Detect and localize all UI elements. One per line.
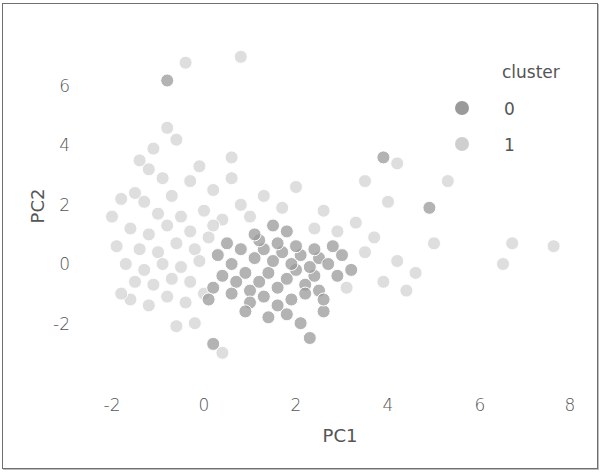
data-point-cluster-1 — [409, 266, 422, 279]
legend-marker-cluster-1 — [455, 137, 469, 151]
data-point-cluster-1 — [110, 240, 123, 253]
data-point-cluster-0 — [221, 237, 234, 250]
data-point-cluster-0 — [280, 225, 293, 238]
data-point-cluster-1 — [119, 258, 132, 271]
data-point-cluster-1 — [170, 237, 183, 250]
y-tick-neg2: -2 — [53, 314, 70, 334]
data-point-cluster-0 — [299, 287, 312, 300]
data-point-cluster-1 — [340, 281, 353, 294]
data-point-cluster-1 — [193, 255, 206, 268]
data-point-cluster-0 — [294, 317, 307, 330]
data-point-cluster-1 — [359, 175, 372, 188]
x-tick-4: 4 — [383, 395, 394, 415]
data-point-cluster-1 — [547, 240, 560, 253]
data-point-cluster-1 — [331, 225, 344, 238]
data-point-cluster-1 — [161, 219, 174, 232]
data-point-cluster-1 — [175, 261, 188, 274]
data-point-cluster-1 — [156, 258, 169, 271]
data-point-cluster-0 — [377, 151, 390, 164]
data-point-cluster-0 — [225, 258, 238, 271]
data-point-cluster-1 — [138, 195, 151, 208]
y-axis-ticks: 6 4 2 0 -2 — [53, 76, 70, 334]
data-point-cluster-1 — [257, 189, 270, 202]
data-point-cluster-1 — [165, 272, 178, 285]
data-point-cluster-0 — [248, 228, 261, 241]
data-point-cluster-1 — [368, 231, 381, 244]
data-point-cluster-1 — [207, 184, 220, 197]
data-point-cluster-1 — [290, 181, 303, 194]
data-point-cluster-1 — [161, 290, 174, 303]
legend-label-cluster-1: 1 — [504, 135, 515, 155]
data-point-cluster-1 — [428, 237, 441, 250]
data-point-cluster-0 — [331, 269, 344, 282]
data-point-cluster-1 — [506, 237, 519, 250]
data-point-cluster-0 — [326, 240, 339, 253]
y-axis-label: PC2 — [27, 189, 48, 224]
data-point-cluster-1 — [170, 133, 183, 146]
data-point-cluster-1 — [124, 222, 137, 235]
data-point-cluster-0 — [262, 266, 275, 279]
data-point-cluster-0 — [345, 263, 358, 276]
data-point-cluster-1 — [400, 284, 413, 297]
data-point-cluster-1 — [276, 201, 289, 214]
data-point-cluster-1 — [317, 204, 330, 217]
x-axis-ticks: -2 0 2 4 6 8 — [104, 395, 576, 415]
x-tick-0: 0 — [199, 395, 210, 415]
data-point-cluster-1 — [115, 192, 128, 205]
data-point-cluster-0 — [234, 243, 247, 256]
data-point-cluster-1 — [147, 142, 160, 155]
data-point-cluster-1 — [142, 228, 155, 241]
y-tick-4: 4 — [59, 135, 70, 155]
data-point-cluster-0 — [303, 332, 316, 345]
data-point-cluster-0 — [308, 243, 321, 256]
data-point-cluster-1 — [225, 172, 238, 185]
data-point-cluster-0 — [290, 240, 303, 253]
data-point-cluster-1 — [170, 320, 183, 333]
legend-title: cluster — [502, 62, 560, 82]
data-point-cluster-0 — [423, 201, 436, 214]
data-point-cluster-0 — [285, 293, 298, 306]
data-point-cluster-1 — [152, 207, 165, 220]
data-point-cluster-0 — [267, 219, 280, 232]
data-point-cluster-0 — [239, 305, 252, 318]
data-point-cluster-1 — [244, 210, 257, 223]
data-point-cluster-1 — [349, 216, 362, 229]
y-tick-2: 2 — [59, 195, 70, 215]
data-point-cluster-1 — [382, 195, 395, 208]
data-point-cluster-0 — [207, 281, 220, 294]
data-point-cluster-1 — [184, 175, 197, 188]
scatter-chart: 6 4 2 0 -2 -2 0 2 4 6 8 PC1 PC2 cluster … — [0, 0, 602, 476]
data-point-cluster-0 — [317, 305, 330, 318]
data-point-cluster-1 — [129, 275, 142, 288]
data-point-cluster-1 — [147, 278, 160, 291]
data-point-cluster-0 — [322, 258, 335, 271]
legend: cluster 0 1 — [455, 62, 560, 155]
x-tick-2: 2 — [291, 395, 302, 415]
y-tick-0: 0 — [59, 254, 70, 274]
data-point-cluster-1 — [106, 210, 119, 223]
data-point-cluster-1 — [391, 157, 404, 170]
data-point-cluster-1 — [175, 210, 188, 223]
data-point-cluster-1 — [161, 121, 174, 134]
data-point-cluster-1 — [202, 231, 215, 244]
data-point-cluster-1 — [188, 317, 201, 330]
x-axis-label: PC1 — [323, 425, 358, 446]
data-point-cluster-0 — [211, 249, 224, 262]
data-point-cluster-0 — [161, 74, 174, 87]
data-point-cluster-0 — [317, 293, 330, 306]
data-points — [106, 50, 561, 359]
data-point-cluster-0 — [262, 311, 275, 324]
data-point-cluster-0 — [225, 287, 238, 300]
data-point-cluster-0 — [271, 237, 284, 250]
data-point-cluster-0 — [257, 290, 270, 303]
data-point-cluster-1 — [133, 243, 146, 256]
data-point-cluster-1 — [377, 275, 390, 288]
data-point-cluster-1 — [152, 246, 165, 259]
data-point-cluster-1 — [198, 204, 211, 217]
data-point-cluster-1 — [179, 56, 192, 69]
data-point-cluster-0 — [280, 308, 293, 321]
data-point-cluster-1 — [308, 222, 321, 235]
data-point-cluster-1 — [179, 296, 192, 309]
x-tick-6: 6 — [475, 395, 486, 415]
data-point-cluster-1 — [225, 151, 238, 164]
